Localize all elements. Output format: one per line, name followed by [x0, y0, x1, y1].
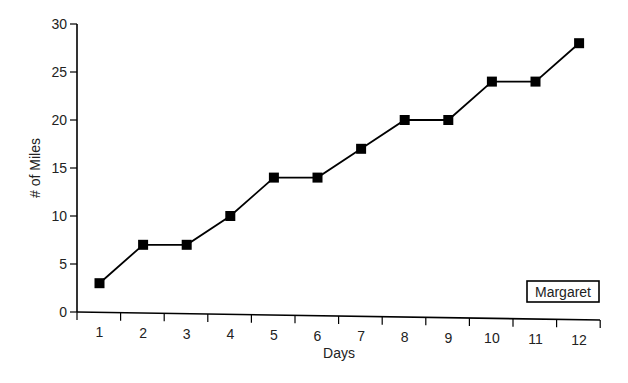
data-point-marker	[574, 38, 584, 48]
x-tick-label: 10	[484, 330, 500, 346]
data-point-marker	[443, 115, 453, 125]
x-tick-label: 5	[270, 327, 278, 343]
x-ticks: 123456789101112	[77, 312, 600, 348]
data-point-marker	[531, 77, 541, 87]
y-tick-label: 25	[51, 64, 67, 80]
x-axis-label: Days	[323, 345, 355, 361]
data-point-marker	[313, 173, 323, 183]
x-tick-label: 6	[314, 328, 322, 344]
data-point-marker	[487, 77, 497, 87]
y-tick-label: 0	[59, 304, 67, 320]
data-point-marker	[182, 240, 192, 250]
data-point-marker	[138, 240, 148, 250]
x-tick-label: 1	[96, 324, 104, 340]
y-tick-label: 20	[51, 112, 67, 128]
x-tick-label: 11	[528, 331, 543, 347]
x-tick-label: 4	[226, 326, 234, 342]
legend: Margaret	[527, 281, 599, 302]
series-line	[100, 43, 580, 283]
x-tick-label: 7	[357, 328, 365, 344]
x-tick-label: 3	[183, 326, 191, 342]
y-tick-label: 30	[51, 16, 67, 32]
data-point-marker	[95, 278, 105, 288]
y-tick-label: 5	[59, 256, 67, 272]
x-tick-label: 2	[139, 325, 147, 341]
axes	[77, 24, 600, 320]
y-tick-label: 15	[51, 160, 67, 176]
y-axis-label: # of Miles	[27, 138, 43, 198]
legend-label: Margaret	[535, 284, 591, 300]
line-chart: 051015202530 123456789101112 Days # of M…	[0, 0, 628, 383]
y-tick-label: 10	[51, 208, 67, 224]
data-point-marker	[356, 144, 366, 154]
x-tick-label: 9	[444, 330, 452, 346]
y-ticks: 051015202530	[51, 16, 77, 320]
data-point-marker	[225, 211, 235, 221]
x-tick-label: 12	[571, 332, 587, 348]
data-point-marker	[269, 173, 279, 183]
data-point-marker	[400, 115, 410, 125]
series	[95, 38, 585, 288]
x-tick-label: 8	[401, 329, 409, 345]
